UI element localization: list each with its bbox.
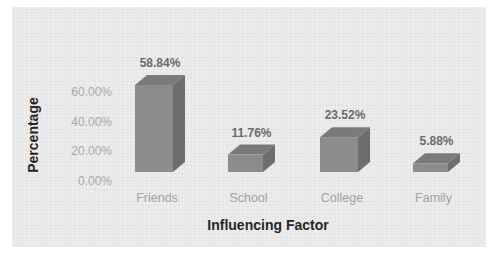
y-tick-label: 0.00% [78,174,112,188]
y-tick-label: 40.00% [71,115,112,129]
bar-school: 11.76% [228,126,275,172]
bar-college: 23.52% [320,108,370,172]
value-label: 58.84% [140,56,181,70]
bar-family: 5.88% [413,134,460,172]
y-tick-label: 20.00% [71,144,112,158]
y-axis-ticks: 0.00%20.00%40.00%60.00% [71,85,112,188]
value-label: 23.52% [325,108,366,122]
bar-friends: 58.84% [135,56,185,172]
y-tick-label: 60.00% [71,85,112,99]
x-axis-ticks: FriendsSchoolCollegeFamily [136,191,452,205]
bars: 58.84%11.76%23.52%5.88% [135,56,460,172]
x-tick-label: School [229,191,267,205]
bar-chart: 0.00%20.00%40.00%60.00% 58.84%11.76%23.5… [0,0,498,264]
x-tick-label: Family [415,191,453,205]
y-axis-title: Percentage [25,97,41,173]
value-label: 5.88% [419,134,453,148]
value-label: 11.76% [231,126,271,140]
x-axis-title: Influencing Factor [207,217,329,233]
x-tick-label: College [321,191,363,205]
x-tick-label: Friends [136,191,178,205]
